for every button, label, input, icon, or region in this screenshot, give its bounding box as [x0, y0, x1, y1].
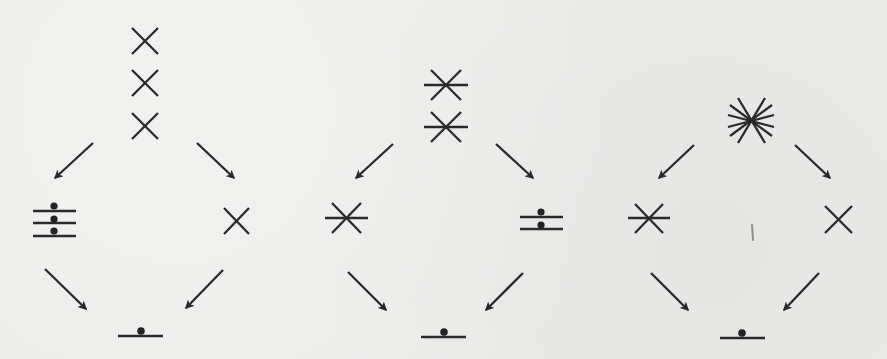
root-star3-icon: [424, 70, 468, 100]
tree-3: [628, 98, 852, 338]
root-star3-icon: [424, 112, 468, 142]
bar3-icon: [33, 202, 76, 236]
arrow-icon: [356, 144, 393, 178]
arrow-icon: [784, 273, 819, 310]
tree-1: [33, 28, 249, 336]
x-icon: [825, 206, 852, 233]
scanned-page: [0, 0, 887, 359]
bar1-icon: [720, 329, 765, 338]
arrow-icon: [55, 143, 93, 178]
arrow-icon: [651, 273, 688, 310]
arrow-icon: [197, 143, 234, 178]
root-x-icon: [132, 113, 158, 139]
bar2-icon: [520, 208, 563, 229]
root-x-icon: [132, 70, 158, 96]
arrow-icon: [186, 270, 223, 308]
root-star6-icon: [728, 98, 774, 143]
scan-speck: [752, 225, 753, 240]
tree-2: [325, 70, 563, 337]
bar1-icon: [421, 328, 466, 337]
star3-icon: [325, 203, 368, 233]
arrow-icon: [45, 269, 86, 309]
arrow-icon: [496, 144, 533, 178]
arrow-icon: [659, 145, 694, 178]
x-icon: [224, 208, 249, 234]
decomposition-diagram: [0, 0, 887, 359]
star3-icon: [628, 204, 670, 233]
arrow-icon: [348, 272, 386, 310]
arrow-icon: [486, 273, 523, 310]
bar1-icon: [118, 327, 163, 336]
root-x-icon: [132, 28, 158, 54]
arrow-icon: [795, 145, 830, 178]
